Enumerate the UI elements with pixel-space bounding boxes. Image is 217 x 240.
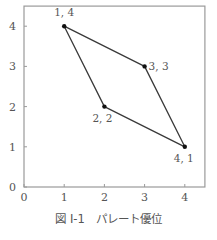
x-tick-label: 4: [181, 191, 188, 204]
y-tick-label: 4: [9, 20, 16, 33]
data-polygon: [64, 26, 185, 147]
polygon-edges: [64, 26, 185, 147]
data-point: [62, 24, 66, 28]
point-label: 4, 1: [174, 152, 194, 164]
x-tick-label: 0: [21, 191, 28, 204]
x-tick-label: 1: [61, 191, 68, 204]
x-tick-label: 3: [141, 191, 148, 204]
data-point: [102, 104, 106, 108]
figure-caption: 図 I-1 パレート優位: [0, 210, 217, 226]
y-tick-label: 0: [9, 181, 16, 194]
y-tick-label: 1: [9, 141, 16, 154]
data-point: [183, 145, 187, 149]
point-label: 1, 4: [54, 6, 74, 18]
data-point: [142, 64, 146, 68]
y-tick-label: 2: [9, 101, 16, 114]
x-tick-label: 2: [101, 191, 108, 204]
pareto-chart: 0123401234 1, 43, 34, 12, 2: [0, 0, 217, 210]
point-label: 2, 2: [92, 112, 112, 124]
point-label: 3, 3: [149, 60, 169, 72]
y-tick-label: 3: [9, 60, 16, 73]
